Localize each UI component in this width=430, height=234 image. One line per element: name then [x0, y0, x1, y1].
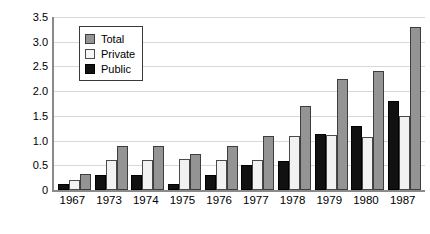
bar-total	[117, 146, 128, 190]
y-tick-label: 3.5	[18, 11, 48, 23]
bar-total	[263, 136, 274, 190]
y-tick-label: 0	[18, 184, 48, 196]
bar-private	[399, 116, 410, 190]
bar-total	[373, 71, 384, 190]
bar-public	[131, 175, 142, 190]
bar-public	[95, 175, 106, 190]
total-swatch	[85, 34, 95, 44]
bar-public	[315, 134, 326, 190]
bar-private	[216, 160, 227, 190]
legend-label: Private	[101, 48, 135, 60]
bar-total	[300, 106, 311, 190]
y-tick-label: 2.5	[18, 60, 48, 72]
x-tick-label: 1975	[164, 194, 201, 206]
bar-group	[240, 17, 277, 190]
bar-private	[69, 180, 80, 190]
bar-public	[58, 184, 69, 190]
y-axis-tick-labels: 00.51.01.52.02.53.03.5	[18, 0, 48, 234]
y-tick-label: 1.5	[18, 110, 48, 122]
bar-private	[362, 137, 373, 190]
x-tick-label: 1979	[311, 194, 348, 206]
bar-public	[388, 101, 399, 190]
legend-item-private: Private	[85, 46, 135, 61]
x-tick-label: 1980	[348, 194, 385, 206]
bar-total	[337, 79, 348, 190]
bar-private	[289, 136, 300, 190]
bar-total	[153, 146, 164, 190]
x-tick-label: 1976	[201, 194, 238, 206]
bar-public	[241, 165, 252, 190]
bar-public	[278, 161, 289, 190]
private-swatch	[85, 49, 95, 59]
bar-private	[179, 159, 190, 190]
x-tick-label: 1967	[54, 194, 91, 206]
y-tick-label: 3.0	[18, 36, 48, 48]
y-tick-label: 0.5	[18, 159, 48, 171]
bar-total	[227, 146, 238, 190]
legend-item-public: Public	[85, 61, 135, 76]
bar-group	[276, 17, 313, 190]
x-tick-label: 1987	[384, 194, 421, 206]
bar-group	[350, 17, 387, 190]
bar-private	[326, 135, 337, 190]
legend-label: Total	[101, 33, 124, 45]
public-swatch	[85, 64, 95, 74]
bar-group	[386, 17, 423, 190]
x-tick-label: 1974	[127, 194, 164, 206]
bar-public	[205, 175, 216, 190]
bar-private	[142, 160, 153, 190]
bar-total	[410, 27, 421, 190]
chart-legend: TotalPrivatePublic	[79, 26, 143, 81]
bar-group	[166, 17, 203, 190]
bar-private	[106, 160, 117, 190]
bar-total	[80, 174, 91, 190]
bar-chart: $ million 00.51.01.52.02.53.03.5 1967197…	[0, 0, 430, 234]
bar-group	[313, 17, 350, 190]
bar-total	[190, 154, 201, 190]
x-tick-label: 1978	[274, 194, 311, 206]
bar-private	[252, 160, 263, 190]
bar-public	[168, 184, 179, 190]
x-tick-label: 1977	[238, 194, 275, 206]
bar-group	[203, 17, 240, 190]
legend-label: Public	[101, 63, 131, 75]
x-axis-tick-labels: 1967197319741975197619771978197919801987	[52, 194, 423, 206]
legend-item-total: Total	[85, 31, 135, 46]
y-tick-label: 1.0	[18, 135, 48, 147]
bar-public	[351, 126, 362, 190]
x-tick-label: 1973	[91, 194, 128, 206]
y-tick-label: 2.0	[18, 85, 48, 97]
